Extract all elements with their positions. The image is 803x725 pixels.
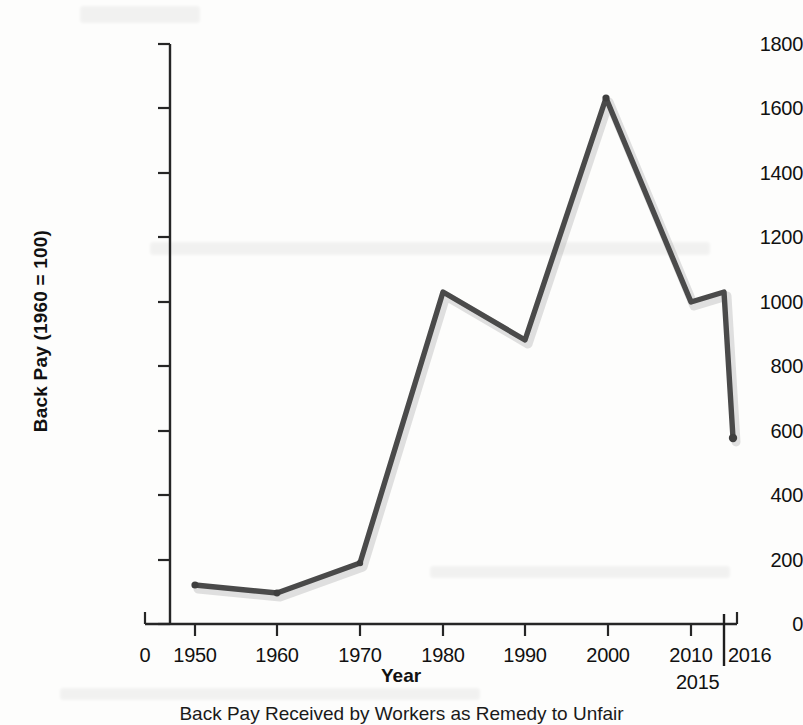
y-axis-title: Back Pay (1960 = 100)	[30, 186, 52, 476]
x-annotation-2015: 2015	[676, 672, 719, 692]
y-tick-label: 600	[651, 421, 803, 441]
x-tick-label: 2000	[568, 645, 648, 665]
x-tick-label: 1980	[403, 645, 483, 665]
x-tick-label: 1950	[155, 645, 235, 665]
y-tick-label: 1600	[651, 98, 803, 118]
y-tick-label: 800	[651, 356, 803, 376]
y-tick-label: 200	[651, 550, 803, 570]
x-tick-label: 1990	[485, 645, 565, 665]
figure-caption: Back Pay Received by Workers as Remedy t…	[0, 703, 803, 725]
x-tick-label: 2010	[651, 645, 731, 665]
y-tick-label: 1400	[651, 163, 803, 183]
y-tick-label: 1000	[651, 292, 803, 312]
x-axis-title: Year	[381, 665, 421, 687]
y-tick-label: 1800	[651, 34, 803, 54]
x-tick-label: 1960	[237, 645, 317, 665]
y-tick-label: 400	[651, 485, 803, 505]
y-tick-label: 1200	[651, 227, 803, 247]
y-tick-marks	[158, 44, 170, 624]
y-tick-label: 0	[651, 614, 803, 634]
x-tick-label: 2016	[728, 645, 802, 665]
x-tick-label: 1970	[320, 645, 400, 665]
